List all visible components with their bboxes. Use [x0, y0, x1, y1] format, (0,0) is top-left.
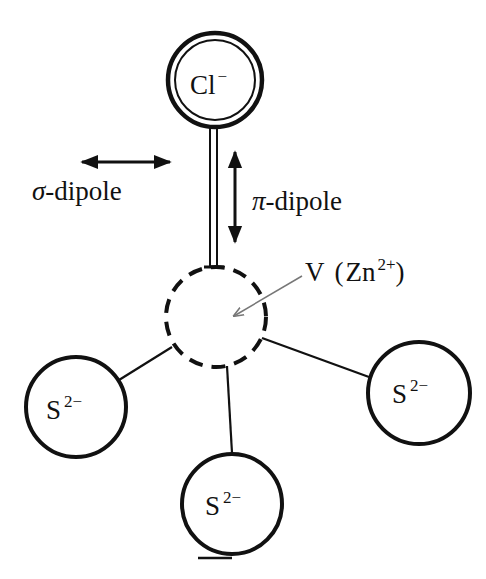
sulfur-ion-bottom: S2−	[182, 454, 282, 558]
vacancy-pointer-arrow	[234, 276, 302, 316]
vacancy-site	[166, 267, 266, 367]
bond-right	[262, 338, 369, 377]
sigma-dipole-label: σ-dipole	[32, 176, 122, 206]
bond-bottom	[227, 366, 232, 453]
sulfur-ion-left: S2−	[26, 357, 126, 457]
bond-left	[119, 347, 172, 380]
pi-dipole-label: π-dipole	[252, 186, 342, 216]
sulfur-left-label: S2−	[46, 392, 82, 425]
vacancy-label: V(Zn2+)	[305, 255, 405, 287]
sulfur-bottom-label: S2−	[205, 488, 241, 521]
sulfur-ion-right: S2−	[368, 342, 470, 444]
chloride-ion: Cl−	[168, 33, 262, 127]
sulfur-right-label: S2−	[392, 376, 428, 409]
vacancy-defect-diagram: Cl− σ-dipole π-dipole V(Zn2+) S2− S2− S2…	[0, 0, 486, 579]
double-bond-stem	[204, 127, 224, 267]
chloride-label: Cl−	[190, 67, 227, 100]
